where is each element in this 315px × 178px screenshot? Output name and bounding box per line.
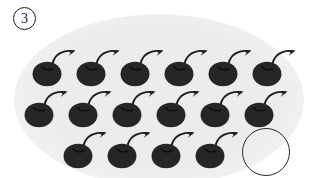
empty-circle-outline: [242, 128, 290, 176]
cherry-r2-c5: [199, 85, 245, 129]
cherry-r3-c2: [106, 126, 152, 170]
cherry-r2-c1: [23, 85, 69, 129]
cherry-body: [157, 103, 186, 127]
cherry-body: [121, 62, 150, 86]
cherry-body: [165, 62, 194, 86]
cherry-body: [152, 144, 181, 168]
cherry-r1-c3: [119, 44, 165, 88]
cherry-r3-c3: [150, 126, 196, 170]
cherry-r1-c4: [163, 44, 209, 88]
cherry-body: [108, 144, 137, 168]
cherry-body: [64, 144, 93, 168]
cherry-leaf-arrow: [280, 91, 288, 97]
cherry-body: [25, 103, 54, 127]
cherry-leaf-arrow: [288, 50, 296, 56]
cherry-r3-c4: [194, 126, 240, 170]
cherry-r2-c2: [67, 85, 113, 129]
cherry-r1-c1: [31, 44, 77, 88]
cherry-r2-c4: [155, 85, 201, 129]
cherry-r1-c5: [207, 44, 253, 88]
cherry-body: [201, 103, 230, 127]
illustration-canvas: 3: [0, 0, 315, 178]
cherry-body: [253, 62, 282, 86]
cherry-body: [77, 62, 106, 86]
cherry-body: [69, 103, 98, 127]
item-number-label: 3: [21, 12, 28, 26]
cherry-r1-c2: [75, 44, 121, 88]
cherry-r2-c6: [243, 85, 289, 129]
cherry-r1-c6: [251, 44, 297, 88]
cherry-r2-c3: [111, 85, 157, 129]
item-number-badge: 3: [13, 7, 36, 30]
cherry-body: [113, 103, 142, 127]
cherry-body: [196, 144, 225, 168]
cherry-r3-c1: [62, 126, 108, 170]
cherry-leaf-arrow: [231, 132, 239, 138]
cherry-body: [245, 103, 274, 127]
cherry-body: [33, 62, 62, 86]
cherry-body: [209, 62, 238, 86]
